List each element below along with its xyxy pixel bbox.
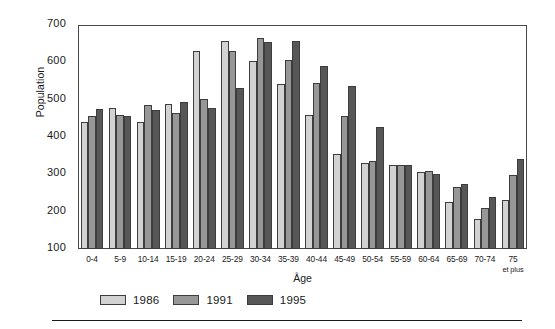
y-tick-label: 700	[47, 17, 66, 29]
bar-1995-50-54	[376, 127, 384, 249]
bar-1986-55-59	[389, 165, 397, 249]
bar-1986-70-74	[474, 219, 482, 249]
bar-1986-65-69	[445, 202, 453, 249]
bar-1991-55-59	[397, 165, 405, 249]
bar-1991-15-19	[172, 113, 180, 249]
bar-group	[474, 25, 497, 249]
bar-1995-65-69	[461, 184, 469, 249]
bar-group	[502, 25, 525, 249]
legend-label: 1991	[206, 294, 232, 306]
bar-1991-60-64	[425, 171, 433, 249]
bars-layer	[78, 25, 527, 249]
x-tick-label: 75et plus	[499, 254, 527, 274]
x-tick-label-main: 30-34	[250, 254, 271, 264]
x-tick-label-main: 10-14	[138, 254, 159, 264]
bar-1986-0-4	[81, 122, 89, 249]
bar-1991-40-44	[313, 83, 321, 249]
x-tick-label: 45-49	[331, 254, 359, 264]
bar-group	[249, 25, 272, 249]
x-tick-label-main: 40-44	[306, 254, 327, 264]
x-tick-label-main: 20-24	[194, 254, 215, 264]
x-tick-label: 60-64	[415, 254, 443, 264]
legend-swatch	[173, 295, 199, 305]
x-tick-label-main: 0-4	[86, 254, 98, 264]
legend-swatch	[100, 295, 126, 305]
legend-swatch	[247, 295, 273, 305]
bar-group	[305, 25, 328, 249]
bar-1995-20-24	[208, 108, 216, 249]
bar-group	[109, 25, 132, 249]
x-tick-label-main: 65-69	[446, 254, 467, 264]
x-tick-label: 20-24	[190, 254, 218, 264]
bar-group	[221, 25, 244, 249]
x-tick-label-main: 15-19	[166, 254, 187, 264]
bar-1995-10-14	[152, 110, 160, 249]
y-tick-label: 600	[47, 54, 66, 66]
x-tick-label: 35-39	[274, 254, 302, 264]
bottom-divider	[52, 320, 522, 321]
bar-1986-35-39	[277, 84, 285, 249]
x-axis-title: Âge	[78, 272, 527, 284]
x-tick-label: 55-59	[387, 254, 415, 264]
y-tick-label: 300	[47, 166, 66, 178]
bar-group	[445, 25, 468, 249]
bar-1986-10-14	[137, 122, 145, 249]
x-tick-label-main: 5-9	[114, 254, 126, 264]
bar-1986-30-34	[249, 61, 257, 249]
bar-1995-5-9	[124, 116, 132, 249]
x-tick-label: 40-44	[303, 254, 331, 264]
bar-1991-50-54	[369, 161, 377, 249]
x-tick-label-main: 50-54	[362, 254, 383, 264]
bar-1986-15-19	[165, 104, 173, 249]
bar-group	[165, 25, 188, 249]
x-tick-label-main: 45-49	[334, 254, 355, 264]
bar-1995-30-34	[264, 42, 272, 249]
bar-1995-15-19	[180, 102, 188, 249]
bar-1991-20-24	[200, 99, 208, 249]
x-tick-label-main: 75	[508, 254, 517, 264]
x-tick-label-main: 25-29	[222, 254, 243, 264]
bar-1986-75	[502, 200, 510, 249]
x-tick-label-main: 60-64	[418, 254, 439, 264]
bar-1995-75	[517, 159, 525, 249]
bar-1995-45-49	[348, 86, 356, 249]
x-tick-label-main: 55-59	[390, 254, 411, 264]
x-tick-label: 70-74	[471, 254, 499, 264]
bar-group	[137, 25, 160, 249]
bar-1991-30-34	[257, 38, 265, 249]
bar-1991-65-69	[453, 187, 461, 249]
bar-1986-60-64	[417, 172, 425, 249]
bar-1986-5-9	[109, 108, 117, 249]
bar-group	[277, 25, 300, 249]
bar-1991-70-74	[481, 208, 489, 249]
bar-group	[417, 25, 440, 249]
x-tick-label: 0-4	[78, 254, 106, 264]
x-tick-label-main: 70-74	[474, 254, 495, 264]
bar-1995-35-39	[292, 41, 300, 249]
bar-group	[361, 25, 384, 249]
y-tick-label: 500	[47, 92, 66, 104]
x-tick-label: 65-69	[443, 254, 471, 264]
bar-1995-60-64	[433, 174, 441, 249]
y-axis-title: Population	[34, 32, 46, 152]
bar-1995-40-44	[320, 66, 328, 249]
y-tick-label: 100	[47, 241, 66, 253]
bar-group	[81, 25, 104, 249]
bar-1991-45-49	[341, 116, 349, 249]
bar-1995-70-74	[489, 197, 497, 249]
chart-legend: 198619911995	[100, 294, 306, 306]
legend-label: 1986	[133, 294, 159, 306]
bar-1995-0-4	[96, 109, 104, 249]
legend-item-1986: 1986	[100, 294, 159, 306]
x-tick-label: 25-29	[218, 254, 246, 264]
bar-1986-50-54	[361, 163, 369, 249]
legend-label: 1995	[280, 294, 306, 306]
legend-item-1995: 1995	[247, 294, 306, 306]
bar-group	[333, 25, 356, 249]
legend-item-1991: 1991	[173, 294, 232, 306]
x-tick-label: 30-34	[246, 254, 274, 264]
bar-1986-20-24	[193, 51, 201, 249]
bar-1986-25-29	[221, 41, 229, 249]
y-tick-label: 400	[47, 129, 66, 141]
x-tick-label: 5-9	[106, 254, 134, 264]
